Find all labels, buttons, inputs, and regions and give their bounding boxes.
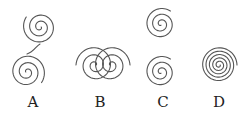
- connector-curve: [27, 44, 40, 54]
- spiral-curve: [147, 9, 172, 37]
- label-c: C: [157, 95, 168, 110]
- spiral-curve: [24, 15, 54, 42]
- panel-a-spirals: [13, 15, 54, 84]
- label-a: A: [28, 95, 39, 110]
- panel-d-spirals: [203, 48, 237, 81]
- spiral-curve: [76, 48, 110, 79]
- spiral-curve: [96, 48, 130, 79]
- panel-c-spirals: [147, 9, 172, 85]
- panel-b-spirals: [76, 48, 130, 79]
- spiral-curve: [13, 56, 45, 84]
- label-b: B: [94, 95, 105, 110]
- spiral-curve: [147, 57, 172, 85]
- label-d: D: [213, 95, 225, 110]
- spiral-curve: [203, 48, 237, 81]
